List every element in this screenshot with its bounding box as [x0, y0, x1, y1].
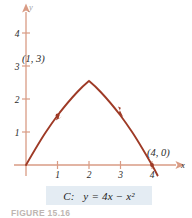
- y-tick-label-3: 3: [14, 62, 20, 72]
- figure-number-caption: FIGURE 15.16: [11, 209, 106, 218]
- x-tick-label-4: 4: [150, 170, 155, 180]
- y-tick-label-4: 4: [15, 29, 20, 39]
- point-marker-4-0: [150, 163, 154, 167]
- point-marker-1-3: [56, 114, 60, 118]
- equation-caption-text: C: y = 4x − x²: [63, 190, 135, 202]
- x-tick-label-2: 2: [87, 170, 92, 180]
- y-tick-label-2: 2: [15, 95, 20, 105]
- parabola-plot: 1 2 3 4 1 2 3 4 x y: [0, 0, 192, 185]
- point-label-1-3: (1, 3): [22, 53, 45, 65]
- x-axis-name-label: x: [180, 160, 185, 170]
- point-label-4-0: (4, 0): [147, 147, 170, 159]
- x-tick-label-3: 3: [117, 170, 123, 180]
- y-tick-label-1: 1: [15, 128, 20, 138]
- y-axis-name-label: y: [28, 2, 33, 12]
- curve-group: [26, 81, 158, 176]
- parabola-curve: [26, 81, 158, 176]
- y-axis-tick-labels: 1 2 3 4: [14, 29, 20, 138]
- equation-caption-box: C: y = 4x − x²: [46, 186, 152, 205]
- x-tick-label-1: 1: [55, 170, 60, 180]
- figure-container: 1 2 3 4 1 2 3 4 x y: [0, 0, 192, 218]
- x-axis-tick-labels: 1 2 3 4: [55, 170, 155, 180]
